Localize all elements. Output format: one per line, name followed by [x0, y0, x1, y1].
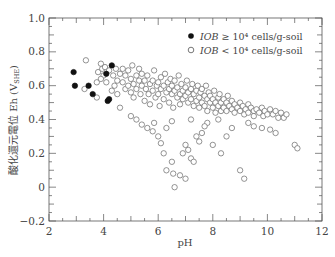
data-point-open — [147, 102, 152, 107]
data-point-open — [295, 146, 300, 151]
data-point-open — [176, 73, 181, 78]
data-point-open — [169, 119, 174, 124]
data-point-open — [216, 117, 221, 122]
data-point-open — [191, 103, 196, 108]
data-point-open — [188, 86, 193, 91]
legend-label-italic: IOB — [199, 31, 219, 42]
x-tick-label: 6 — [155, 225, 162, 237]
filled-circle-icon — [188, 33, 194, 39]
data-point-filled — [86, 83, 91, 88]
legend: IOB ≥ 10⁴ cells/g-soil IOB < 10⁴ cells/g… — [188, 31, 302, 56]
data-point-open — [83, 58, 88, 63]
data-point-open — [156, 80, 161, 85]
data-point-filled — [109, 63, 114, 68]
data-point-open — [136, 78, 141, 83]
data-point-open — [212, 88, 217, 93]
data-point-open — [188, 117, 193, 122]
data-point-open — [224, 108, 229, 113]
data-point-open — [267, 127, 272, 132]
data-point-open — [194, 134, 199, 139]
data-point-open — [130, 63, 135, 68]
data-point-open — [143, 86, 148, 91]
data-point-open — [128, 90, 133, 95]
y-tick-label: 0.8 — [28, 45, 45, 57]
data-point-open — [217, 91, 222, 96]
data-point-open — [218, 151, 223, 156]
x-tick-labels: 24681012 — [46, 225, 329, 237]
data-point-open — [267, 107, 272, 112]
data-point-open — [197, 105, 202, 110]
data-point-open — [191, 159, 196, 164]
data-point-open — [150, 129, 155, 134]
data-point-open — [180, 151, 185, 156]
data-point-open — [157, 103, 162, 108]
data-point-open — [109, 88, 114, 93]
data-point-open — [278, 110, 283, 115]
data-point-open — [117, 105, 122, 110]
data-point-open — [111, 73, 116, 78]
svg-text:IOB < 10⁴ cells/g-soil: IOB < 10⁴ cells/g-soil — [199, 45, 303, 56]
data-point-open — [123, 73, 128, 78]
data-point-filled — [71, 69, 76, 74]
y-tick-label: −0.2 — [20, 215, 46, 227]
data-point-open — [251, 124, 256, 129]
data-point-open — [183, 176, 188, 181]
data-point-open — [142, 98, 147, 103]
data-point-open — [128, 113, 133, 118]
data-point-open — [251, 113, 256, 118]
data-point-open — [156, 134, 161, 139]
data-point-open — [273, 130, 278, 135]
data-point-open — [197, 139, 202, 144]
data-point-filled — [104, 71, 109, 76]
data-point-open — [186, 147, 191, 152]
data-point-open — [126, 68, 131, 73]
data-point-open — [115, 91, 120, 96]
data-point-open — [117, 71, 122, 76]
data-point-open — [199, 130, 204, 135]
legend-label-rest: ≥ 10⁴ cells/g-soil — [219, 31, 303, 42]
data-point-open — [131, 95, 136, 100]
series-open-circles — [82, 58, 300, 190]
data-point-open — [265, 112, 270, 117]
x-tick-label: 2 — [46, 225, 53, 237]
data-point-open — [151, 68, 156, 73]
data-point-open — [276, 115, 281, 120]
x-tick-label: 8 — [209, 225, 216, 237]
data-point-open — [169, 159, 174, 164]
data-point-open — [150, 88, 155, 93]
data-point-open — [120, 80, 125, 85]
data-point-open — [158, 141, 163, 146]
legend-label-italic: IOB — [199, 45, 219, 56]
y-tick-label: 0.4 — [28, 113, 45, 125]
data-point-open — [210, 105, 215, 110]
data-point-open — [150, 78, 155, 83]
data-point-open — [213, 110, 218, 115]
data-point-open — [259, 125, 264, 130]
scatter-chart: 24681012 −0.200.20.40.60.81.0 pH 酸化還元電位 … — [0, 0, 335, 257]
y-axis-label-sub: SHE — [13, 69, 21, 84]
x-tick-label: 4 — [100, 225, 107, 237]
data-point-open — [225, 93, 230, 98]
data-point-open — [197, 95, 202, 100]
open-circle-icon — [188, 47, 194, 53]
y-tick-label: 0 — [38, 181, 45, 193]
data-point-open — [237, 168, 242, 173]
y-axis-label: 酸化還元電位 Eh (VSHE) — [7, 65, 21, 175]
y-axis-label-main: 酸化還元電位 Eh (V — [7, 83, 19, 175]
data-point-open — [136, 66, 141, 71]
data-point-open — [128, 76, 133, 81]
legend-item-high-iob: IOB ≥ 10⁴ cells/g-soil — [188, 31, 302, 42]
data-point-open — [104, 80, 109, 85]
data-point-open — [172, 185, 177, 190]
y-tick-labels: −0.200.20.40.60.81.0 — [20, 12, 46, 227]
data-point-filled — [106, 97, 111, 102]
data-point-open — [202, 124, 207, 129]
x-tick-label: 12 — [315, 225, 328, 237]
data-point-open — [188, 97, 193, 102]
data-point-open — [184, 78, 189, 83]
data-point-open — [98, 76, 103, 81]
data-point-open — [162, 71, 167, 76]
data-point-open — [246, 110, 251, 115]
svg-text:IOB ≥ 10⁴ cells/g-soil: IOB ≥ 10⁴ cells/g-soil — [199, 31, 303, 42]
data-point-open — [177, 173, 182, 178]
